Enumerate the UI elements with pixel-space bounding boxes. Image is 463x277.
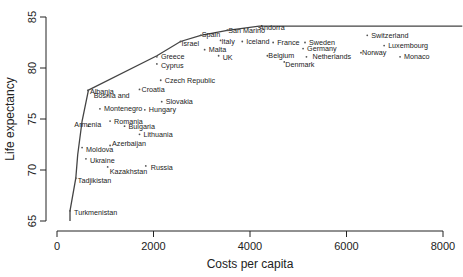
point-marker [161,101,163,103]
point-label: Norway [362,48,387,57]
point-label: Cyprus [161,61,184,70]
point-marker [139,133,141,135]
point-marker [383,45,385,47]
point-marker [160,79,162,81]
data-point: Switzerland [366,31,408,40]
data-point: Albania [87,87,114,96]
data-point: Tadjikistan [75,176,111,185]
point-marker [75,177,77,179]
data-point: Lithuania [139,130,173,139]
data-point: Kazakhstan [107,166,147,176]
point-label: Lithuania [144,130,173,139]
data-point: Israel [180,39,200,48]
y-tick-label: 80 [26,62,38,74]
point-label: Ukraine [90,156,115,165]
data-point: Turkmenistan [69,208,117,217]
x-tick-label: 2000 [141,240,165,252]
point-marker [107,166,109,168]
data-point: Slovakia [161,97,193,106]
point-marker [156,56,158,58]
data-point: Azerbaijan [109,139,146,148]
point-marker [145,165,147,167]
data-point: Russia [145,163,173,172]
point-marker [241,41,243,43]
y-tick-label: 70 [26,164,38,176]
point-marker [204,49,206,51]
data-point: Andorra [258,23,284,32]
point-label: Slovakia [166,97,193,106]
point-label: Hungary [149,105,177,114]
point-label: Spain [202,30,220,39]
point-marker [304,42,306,44]
data-point: Hungary [144,105,176,114]
point-label: Denmark [285,60,315,69]
point-label: Kazakhstan [110,167,148,176]
chart-canvas: 657075808502000400060008000 Turkmenistan… [0,0,463,277]
point-label: UK [223,53,233,62]
data-point: Italy [220,37,235,46]
data-point: Greece [156,52,184,61]
point-marker [81,147,83,149]
point-label: Monaco [404,52,430,61]
point-label: Croatia [142,85,165,94]
point-label: France [277,38,299,47]
point-label: Albania [90,87,114,96]
point-marker [218,55,220,57]
point-marker [99,108,101,110]
point-marker [306,56,308,58]
data-point: UK [218,53,233,62]
data-points: TurkmenistanTadjikistanMoldovaUkraineKaz… [69,23,430,218]
point-label: Belgium [268,51,294,60]
y-tick-label: 85 [26,11,38,23]
point-label: Netherlands [312,52,351,61]
point-marker [124,125,126,127]
point-marker [87,90,89,92]
x-tick-label: 6000 [334,240,358,252]
point-label: Israel [182,39,200,48]
point-marker [85,158,87,160]
point-label: Italy [222,37,236,46]
data-point: Moldova [81,145,113,154]
point-label: Switzerland [371,31,408,40]
point-marker [139,89,141,91]
x-tick-label: 8000 [431,240,455,252]
point-marker [144,109,146,111]
point-label: Czech Republic [165,76,216,85]
point-marker [272,42,274,44]
data-point: Monaco [399,52,429,61]
data-point: Cyprus [156,61,184,70]
point-label: Russia [151,163,173,172]
point-label: Azerbaijan [112,139,146,148]
point-label: Montenegro [104,104,142,113]
data-point: Luxembourg [383,41,428,50]
point-label: Andorra [259,23,285,32]
point-marker [399,56,401,58]
data-point: Belgium [266,51,294,60]
point-label: Turkmenistan [74,208,117,217]
y-tick-label: 75 [26,113,38,125]
data-point: Croatia [139,85,165,94]
point-label: Iceland [246,37,269,46]
y-tick-label: 65 [26,215,38,227]
data-point: Iceland [241,37,269,46]
data-point: France [272,38,299,47]
data-point: Netherlands [306,52,352,61]
point-marker [302,48,304,50]
point-marker [109,120,111,122]
x-axis-title: Costs per capita [207,257,294,271]
point-marker [156,63,158,65]
point-marker [69,210,71,212]
data-point: Armenia [74,120,101,129]
data-point: Norway [360,48,387,57]
data-point: Ukraine [85,156,115,165]
data-point: Czech Republic [160,76,216,85]
data-point: Spain [200,30,220,39]
data-point: Montenegro [99,104,142,113]
point-label: Tadjikistan [78,176,112,185]
point-label: Armenia [74,120,101,129]
point-marker [109,145,111,147]
x-tick-label: 0 [54,240,60,252]
y-axis-title: Life expectancy [3,77,17,160]
point-marker [366,34,368,36]
point-label: Luxembourg [388,41,428,50]
